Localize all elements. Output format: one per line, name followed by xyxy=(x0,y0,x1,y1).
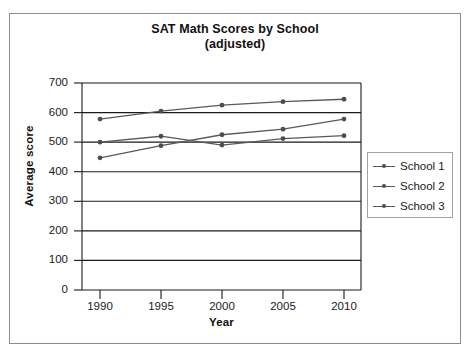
legend-label-school-2: School 2 xyxy=(400,180,445,192)
x-tick-label-1990: 1990 xyxy=(76,300,124,312)
legend-entry-school-3: School 3 xyxy=(373,196,445,216)
data-point xyxy=(220,143,225,148)
data-series-group xyxy=(98,97,347,160)
data-point xyxy=(98,117,103,122)
data-point xyxy=(342,97,347,102)
data-point xyxy=(98,140,103,145)
legend-line-icon xyxy=(373,161,395,171)
y-axis-ticks xyxy=(74,83,82,290)
y-tick-label-100: 100 xyxy=(26,253,68,265)
chart-figure: SAT Math Scores by School (adjusted) xyxy=(0,0,470,359)
gridlines xyxy=(82,83,361,290)
legend-entry-school-1: School 1 xyxy=(373,156,445,176)
plot-frame xyxy=(82,83,361,290)
y-tick-label-700: 700 xyxy=(26,76,68,88)
x-axis-title: Year xyxy=(82,316,361,328)
data-point xyxy=(342,117,347,122)
x-tick-label-2010: 2010 xyxy=(320,300,368,312)
legend-line-icon xyxy=(373,181,395,191)
data-point xyxy=(98,155,103,160)
series-school-2 xyxy=(98,97,347,122)
chart-legend: School 1 School 2 School 3 xyxy=(367,152,453,218)
data-point xyxy=(159,143,164,148)
y-axis-title: Average score xyxy=(23,106,35,226)
legend-label-school-1: School 1 xyxy=(400,160,445,172)
data-point xyxy=(220,132,225,137)
data-point xyxy=(281,99,286,104)
series-line xyxy=(100,99,344,119)
x-tick-label-2005: 2005 xyxy=(259,300,307,312)
x-tick-label-1995: 1995 xyxy=(137,300,185,312)
data-point xyxy=(220,103,225,108)
data-point xyxy=(342,133,347,138)
x-tick-label-2000: 2000 xyxy=(198,300,246,312)
x-axis-ticks xyxy=(100,290,344,299)
legend-entry-school-2: School 2 xyxy=(373,176,445,196)
y-tick-label-0: 0 xyxy=(26,283,68,295)
legend-label-school-3: School 3 xyxy=(400,200,445,212)
data-point xyxy=(159,134,164,139)
legend-line-icon xyxy=(373,201,395,211)
data-point xyxy=(281,136,286,141)
data-point xyxy=(159,109,164,114)
data-point xyxy=(281,127,286,132)
